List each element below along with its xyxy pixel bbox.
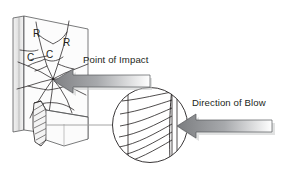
point-of-impact-label: Point of Impact <box>83 54 149 65</box>
crack-marker-radial-2: R <box>63 37 70 48</box>
direction-of-blow-label: Direction of Blow <box>192 97 266 108</box>
blow-arrow <box>177 114 275 141</box>
diagram-canvas: R R C C <box>0 0 291 181</box>
glass-slab-edge <box>13 16 24 132</box>
crack-marker-concentric-1: C <box>27 52 34 63</box>
magnified-edge-callout <box>113 85 188 165</box>
crack-marker-radial-1: R <box>33 28 40 39</box>
crack-marker-concentric-2: C <box>46 49 53 60</box>
glass-fracture-diagram: R R C C <box>0 0 291 181</box>
